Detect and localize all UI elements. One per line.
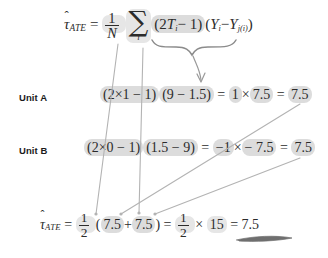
unit-b-times: × — [234, 140, 242, 155]
unit-b-equals2: = — [280, 140, 288, 155]
match-subscript: j(i) — [238, 24, 248, 33]
unit-b-result: 7.5 — [291, 139, 315, 156]
final-tau-hat-accent: ˆ — [40, 210, 44, 222]
main-formula-equals: = — [90, 16, 98, 32]
unit-b-diff-term: (1.5 − 9) — [143, 139, 198, 156]
slide-canvas: ˆτATE = 1 N ∑ i (2Ti− 1)(Yi−Yj(i)) Unit … — [0, 0, 328, 258]
unit-a-equation: (2×1 − 1)(9 − 1.5) = 1×7.5 = 7.5 — [100, 87, 312, 103]
final-close-paren: ) — [155, 217, 160, 232]
n-to-half-arrow-icon — [94, 44, 118, 216]
treatment-symbol: T — [167, 16, 175, 32]
final-sum-value: 15 — [207, 216, 227, 233]
unit-b-equals: = — [201, 140, 209, 155]
final-formula-tau: ˆτ — [40, 217, 45, 233]
final-fraction-denominator: 2 — [79, 225, 90, 240]
final-result: 7.5 — [242, 217, 260, 232]
final-formula-equals: = — [64, 217, 72, 232]
match-symbol: Y — [229, 16, 237, 32]
unit-a-equals: = — [217, 87, 225, 102]
unit-b-result-arrow-icon — [153, 158, 300, 216]
sign-two: 2 — [159, 16, 167, 32]
main-formula-summation: ∑ i — [126, 9, 152, 43]
main-formula-subscript: ATE — [69, 23, 86, 33]
unit-b-sign-value: −1 — [213, 139, 234, 156]
fraction-denominator: N — [105, 25, 119, 41]
unit-a-result: 7.5 — [288, 86, 312, 103]
final-term-b: 7.5 — [132, 216, 156, 233]
unit-a-result-arrow-icon — [119, 104, 300, 216]
brace-to-units-arrow-icon — [193, 56, 205, 82]
final-fraction2-numerator: 1 — [178, 211, 189, 225]
unit-b-sign-term: (2×0 − 1) — [84, 139, 143, 156]
main-formula-diff-term: (Yi−Yj(i)) — [205, 16, 253, 32]
unit-b-equation: (2×0 − 1)(1.5 − 9) = −1×− 7.5 = 7.5 — [84, 140, 315, 156]
final-equals2: = — [164, 217, 172, 232]
final-term-a: 7.5 — [101, 216, 125, 233]
unit-b-label: Unit B — [19, 145, 48, 156]
main-formula: ˆτATE = 1 N ∑ i (2Ti− 1)(Yi−Yj(i)) — [64, 9, 253, 43]
unit-a-label: Unit A — [19, 92, 47, 103]
final-open-paren: ( — [96, 217, 101, 232]
final-plus: + — [124, 217, 132, 232]
sum-to-sum-arrow-icon — [137, 48, 143, 215]
sign-close-paren: ) — [197, 16, 202, 32]
final-formula: ˆτATE = 1 2 (7.5+7.5) = 1 2 × 15 = 7.5 — [40, 211, 259, 240]
main-formula-tau: ˆτ — [64, 16, 69, 33]
unit-a-times: × — [242, 87, 250, 102]
sigma-glyph: ∑ — [129, 10, 149, 34]
fraction-numerator: 1 — [105, 11, 119, 26]
final-fraction2-denominator: 2 — [178, 225, 189, 240]
final-equals3: = — [230, 217, 238, 232]
unit-a-sign-value: 1 — [229, 86, 242, 103]
tau-hat-accent: ˆ — [64, 10, 68, 23]
unit-b-diff-value: − 7.5 — [242, 139, 277, 156]
unit-a-sign-term: (2×1 − 1) — [100, 86, 159, 103]
diff-minus: − — [221, 16, 229, 32]
unit-a-diff-term: (9 − 1.5) — [159, 86, 214, 103]
diff-close-paren: ) — [248, 16, 253, 32]
outcome-symbol: Y — [210, 16, 218, 32]
unit-a-diff-value: 7.5 — [250, 86, 274, 103]
final-fraction-half: 1 2 — [76, 216, 96, 233]
main-formula-fraction: 1 N — [102, 15, 125, 33]
sign-minus-one: − 1 — [177, 16, 197, 32]
final-fraction-numerator: 1 — [79, 211, 90, 225]
main-formula-sign-term: (2Ti− 1) — [151, 15, 205, 33]
final-fraction-half-2: 1 2 — [175, 216, 195, 233]
final-formula-subscript: ATE — [45, 222, 61, 232]
final-times: × — [195, 217, 203, 232]
unit-a-equals2: = — [277, 87, 285, 102]
